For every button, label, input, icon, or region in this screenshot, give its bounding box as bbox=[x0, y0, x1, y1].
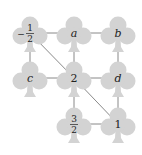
node-label-numerator: 3 bbox=[71, 114, 77, 124]
node-label-sign: − bbox=[17, 29, 25, 39]
club-graph-diagram: 12−abc2d321 bbox=[0, 0, 142, 155]
node-label: b bbox=[114, 27, 121, 40]
node-n_3_2: 32 bbox=[57, 108, 92, 144]
node-n_2: 2 bbox=[57, 62, 92, 98]
node-n_a: a bbox=[57, 17, 92, 53]
node-n_neg_half: 12− bbox=[13, 17, 48, 53]
node-label: 2 bbox=[71, 72, 78, 85]
node-label: 1 bbox=[115, 118, 122, 131]
node-n_b: b bbox=[101, 17, 136, 53]
node-label: a bbox=[71, 27, 78, 40]
node-n_1: 1 bbox=[101, 108, 136, 144]
node-label: c bbox=[27, 72, 33, 85]
node-label-denominator: 2 bbox=[71, 125, 77, 135]
nodes-layer: 12−abc2d321 bbox=[13, 17, 136, 144]
node-n_d: d bbox=[101, 62, 136, 98]
node-label-denominator: 2 bbox=[27, 34, 33, 44]
node-label: d bbox=[114, 72, 121, 85]
node-n_c: c bbox=[13, 62, 48, 98]
node-label-numerator: 1 bbox=[27, 23, 33, 33]
